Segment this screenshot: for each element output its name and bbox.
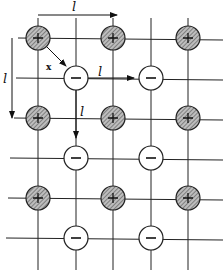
label-top-l: l bbox=[72, 0, 76, 14]
label-left-l: l bbox=[3, 71, 7, 86]
label-x: x bbox=[46, 62, 52, 72]
label-right-l: l bbox=[98, 64, 102, 79]
label-down-l: l bbox=[80, 104, 84, 119]
grid-lines bbox=[6, 18, 223, 270]
lattice-diagram: l l x l l bbox=[0, 0, 223, 275]
